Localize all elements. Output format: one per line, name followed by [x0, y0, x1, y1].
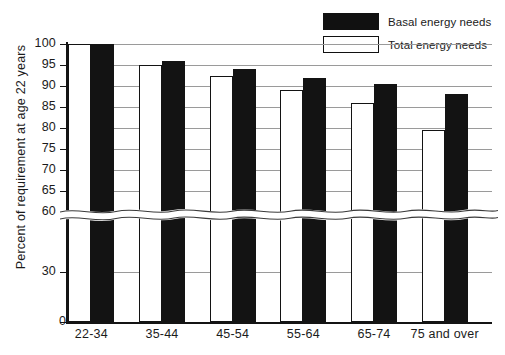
x-tick-label-45-54: 45-54	[197, 327, 268, 341]
x-tick-label-35-44: 35-44	[127, 327, 198, 341]
y-tick-65	[60, 191, 67, 192]
x-tick-label-65-74: 65-74	[339, 327, 410, 341]
y-tick-30	[60, 272, 67, 273]
legend-item-basal: Basal energy needs	[323, 12, 491, 31]
y-tick-75	[60, 149, 67, 150]
y-tick-0	[60, 322, 67, 323]
legend-swatch-basal	[323, 13, 379, 30]
x-tick-label-55-64: 55-64	[268, 327, 339, 341]
bar-total-75-and-over	[422, 130, 445, 322]
bar-total-22-34	[68, 44, 91, 322]
gridline-90	[68, 86, 492, 87]
y-tick-label-85: 85	[12, 99, 56, 113]
bar-basal-22-34	[91, 44, 114, 322]
axis-break-marker	[60, 205, 498, 221]
bar-basal-55-64	[303, 78, 326, 322]
y-tick-label-60: 60	[12, 204, 56, 218]
x-tick-label-22-34: 22-34	[56, 327, 127, 341]
y-tick-label-80: 80	[12, 120, 56, 134]
gridline-95	[68, 65, 492, 66]
bar-total-45-54	[210, 76, 233, 323]
y-tick-label-0: 0	[26, 314, 66, 328]
chart-canvas: Basal energy needs Total energy needs Pe…	[0, 0, 505, 355]
y-tick-label-75: 75	[12, 141, 56, 155]
y-tick-85	[60, 107, 67, 108]
bar-basal-65-74	[374, 84, 397, 322]
gridline-100	[68, 44, 492, 45]
y-tick-label-90: 90	[12, 78, 56, 92]
y-tick-95	[60, 65, 67, 66]
bar-basal-45-54	[233, 69, 256, 322]
y-tick-label-70: 70	[12, 162, 56, 176]
bar-basal-35-44	[162, 61, 185, 322]
x-axis-line	[66, 322, 492, 324]
y-tick-90	[60, 86, 67, 87]
y-tick-80	[60, 128, 67, 129]
y-tick-label-100: 100	[12, 36, 56, 50]
legend-label-basal: Basal energy needs	[388, 16, 491, 28]
x-tick-label-75-and-over: 75 and over	[409, 327, 480, 341]
y-tick-label-30: 30	[12, 264, 56, 278]
bar-total-35-44	[139, 65, 162, 322]
y-tick-100	[60, 44, 67, 45]
y-tick-label-95: 95	[12, 57, 56, 71]
y-tick-label-65: 65	[12, 183, 56, 197]
y-tick-70	[60, 170, 67, 171]
